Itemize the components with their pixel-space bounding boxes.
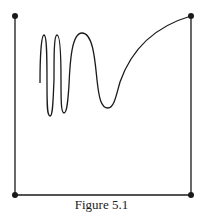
figure-caption: Figure 5.1 — [0, 197, 203, 213]
corner-dot-top-right — [188, 13, 194, 19]
corner-dot-top-left — [12, 13, 18, 19]
oscillating-curve — [40, 16, 191, 116]
figure-diagram — [0, 0, 203, 218]
